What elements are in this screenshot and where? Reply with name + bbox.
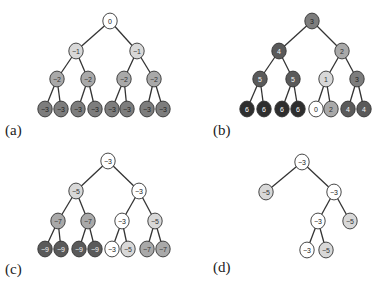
tree-root-node: −3 xyxy=(101,153,115,169)
tree-node: −7 xyxy=(140,241,154,257)
node-value: −5 xyxy=(346,218,354,225)
tree-node: −3 xyxy=(132,183,146,199)
node-value: 6 xyxy=(262,106,266,113)
tree-node: −2 xyxy=(50,71,64,87)
node-value: −2 xyxy=(53,76,61,83)
tree-node: −5 xyxy=(343,213,357,229)
node-value: −3 xyxy=(135,188,143,195)
tree-node: −3 xyxy=(88,101,102,117)
tree-node: −2 xyxy=(81,71,95,87)
tree-node: −3 xyxy=(156,101,170,117)
node-value: 4 xyxy=(362,106,366,113)
tree-node: −3 xyxy=(105,101,119,117)
tree-node: 4 xyxy=(341,101,355,117)
panel-label-d: (d) xyxy=(213,259,231,276)
node-value: −7 xyxy=(159,246,167,253)
node-value: 3 xyxy=(355,76,359,83)
node-value: −3 xyxy=(303,247,311,254)
tree-node: −3 xyxy=(71,101,85,117)
tree-node: −9 xyxy=(72,241,86,257)
node-value: 1 xyxy=(324,76,328,83)
tree-node: −7 xyxy=(156,241,170,257)
node-value: 2 xyxy=(329,106,333,113)
panel-label-c: (c) xyxy=(5,261,22,278)
node-value: −2 xyxy=(84,76,92,83)
tree-node: −3 xyxy=(115,213,129,229)
node-value: −2 xyxy=(150,76,158,83)
node-value: 0 xyxy=(314,106,318,113)
node-value: −5 xyxy=(262,189,270,196)
node-value: −3 xyxy=(108,246,116,253)
tree-node: −5 xyxy=(319,242,333,258)
node-value: −3 xyxy=(314,218,322,225)
tree-root-node: −3 xyxy=(295,154,309,170)
node-value: −3 xyxy=(143,106,151,113)
tree-node: −9 xyxy=(88,241,102,257)
tree-node: −5 xyxy=(148,213,162,229)
tree-node: 1 xyxy=(319,71,333,87)
node-value: −1 xyxy=(133,48,141,55)
tree-diagram-canvas: 0−1−1−2−2−2−2−3−3−3−3−3−3−3−3 3425513666… xyxy=(0,0,385,298)
node-value: 0 xyxy=(108,18,112,25)
tree-node: −5 xyxy=(69,183,83,199)
tree-node: −9 xyxy=(54,241,68,257)
tree-node: −1 xyxy=(69,43,83,59)
node-value: −9 xyxy=(41,246,49,253)
node-value: −7 xyxy=(54,218,62,225)
node-value: −3 xyxy=(123,106,131,113)
node-value: −2 xyxy=(120,76,128,83)
node-value: −3 xyxy=(41,106,49,113)
tree-node: 4 xyxy=(357,101,371,117)
node-value: −3 xyxy=(74,106,82,113)
panel-label-a: (a) xyxy=(5,122,22,139)
node-value: −3 xyxy=(91,106,99,113)
tree-node: −3 xyxy=(327,184,341,200)
node-value: −5 xyxy=(72,188,80,195)
node-value: −9 xyxy=(57,246,65,253)
node-value: 6 xyxy=(296,106,300,113)
tree-node: −3 xyxy=(120,101,134,117)
tree-node: 3 xyxy=(350,71,364,87)
node-value: 4 xyxy=(346,106,350,113)
tree-node: −3 xyxy=(38,101,52,117)
tree-node: −1 xyxy=(130,43,144,59)
tree-panel-a: 0−1−1−2−2−2−2−3−3−3−3−3−3−3−3 xyxy=(38,13,170,117)
node-value: 6 xyxy=(245,106,249,113)
tree-node: −3 xyxy=(300,242,314,258)
tree-node: −7 xyxy=(81,213,95,229)
tree-node: −9 xyxy=(38,241,52,257)
node-value: 6 xyxy=(280,106,284,113)
tree-node: 6 xyxy=(257,101,271,117)
tree-node: −5 xyxy=(259,184,273,200)
node-value: −9 xyxy=(75,246,83,253)
tree-panel-d: −3−5−3−3−5−3−5 xyxy=(259,154,357,258)
tree-node: −5 xyxy=(121,241,135,257)
node-value: 5 xyxy=(258,76,262,83)
tree-root-node: 3 xyxy=(305,13,319,29)
node-value: −3 xyxy=(108,106,116,113)
tree-node: 6 xyxy=(275,101,289,117)
tree-node: −2 xyxy=(117,71,131,87)
tree-node: −3 xyxy=(54,101,68,117)
tree-node: 4 xyxy=(272,43,286,59)
tree-node: 6 xyxy=(291,101,305,117)
node-value: −7 xyxy=(84,218,92,225)
node-value: −3 xyxy=(104,158,112,165)
tree-node: 0 xyxy=(309,101,323,117)
node-value: −5 xyxy=(151,218,159,225)
node-value: −7 xyxy=(143,246,151,253)
node-value: 5 xyxy=(291,76,295,83)
node-value: −1 xyxy=(72,48,80,55)
node-value: −3 xyxy=(330,189,338,196)
tree-node: −7 xyxy=(51,213,65,229)
tree-panel-b: 342551366660244 xyxy=(240,13,371,117)
node-value: −5 xyxy=(124,246,132,253)
node-value: −3 xyxy=(57,106,65,113)
node-value: 2 xyxy=(340,48,344,55)
tree-node: −3 xyxy=(105,241,119,257)
tree-node: −3 xyxy=(140,101,154,117)
tree-node: 5 xyxy=(286,71,300,87)
tree-node: 6 xyxy=(240,101,254,117)
node-value: −3 xyxy=(298,159,306,166)
node-value: 4 xyxy=(277,48,281,55)
